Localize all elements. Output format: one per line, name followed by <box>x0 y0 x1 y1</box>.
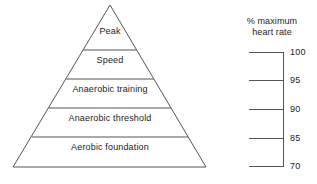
scale-value-100: 100 <box>290 48 316 57</box>
scale-heading: % maximum heart rate <box>228 16 316 38</box>
tier-label-speed: Speed <box>60 55 160 65</box>
tier-label-anaerobic-training: Anaerobic training <box>35 84 185 94</box>
scale-heading-line-1: % maximum <box>228 16 316 27</box>
tier-label-aerobic-foundation: Aerobic foundation <box>35 142 185 152</box>
scale-value-90: 90 <box>290 105 316 114</box>
scale-value-70: 70 <box>290 162 316 171</box>
scale-value-85: 85 <box>290 134 316 143</box>
tier-label-anaerobic-threshold: Anaerobic threshold <box>35 113 185 123</box>
heart-rate-scale-axis <box>249 52 284 167</box>
training-pyramid-figure: Peak Speed Anaerobic training Anaerobic … <box>0 0 317 184</box>
scale-value-95: 95 <box>290 76 316 85</box>
scale-heading-line-2: heart rate <box>228 27 316 38</box>
tier-label-peak: Peak <box>60 26 160 36</box>
